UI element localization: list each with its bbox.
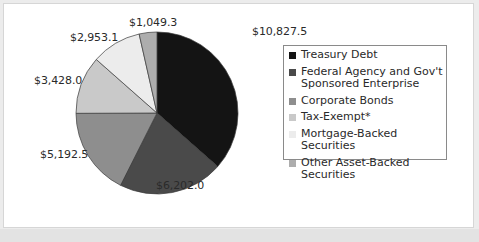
legend-label: Other Asset-Backed Securities <box>301 157 446 182</box>
slice-label-treasury: $10,827.5 <box>252 25 307 38</box>
legend: Treasury Debt Federal Agency and Gov't S… <box>283 45 447 160</box>
legend-label: Mortgage-Backed Securities <box>301 128 446 153</box>
legend-label-line1: Federal Agency and Gov't <box>301 65 443 78</box>
legend-label: Corporate Bonds <box>301 95 393 108</box>
slice-label-corporate: $5,192.5 <box>40 148 88 161</box>
legend-label-line2: Sponsored Enterprise <box>301 77 419 90</box>
slice-label-mortgage: $2,953.1 <box>70 31 118 44</box>
legend-label: Treasury Debt <box>301 49 378 62</box>
legend-swatch <box>289 98 296 105</box>
slice-label-federal: $6,202.0 <box>156 179 204 192</box>
slice-label-other: $1,049.3 <box>129 16 177 29</box>
legend-label: Federal Agency and Gov't Sponsored Enter… <box>301 66 443 91</box>
legend-swatch <box>289 160 296 167</box>
legend-label: Tax-Exempt* <box>301 111 371 124</box>
legend-swatch <box>289 114 296 121</box>
legend-item-federal: Federal Agency and Gov't Sponsored Enter… <box>289 66 446 91</box>
legend-item-other: Other Asset-Backed Securities <box>289 157 446 182</box>
legend-item-tax-exempt: Tax-Exempt* <box>289 111 446 124</box>
legend-item-treasury: Treasury Debt <box>289 49 446 62</box>
slice-label-tax-exempt: $3,428.0 <box>34 74 82 87</box>
legend-item-corporate: Corporate Bonds <box>289 95 446 108</box>
legend-swatch <box>289 131 296 138</box>
legend-item-mortgage: Mortgage-Backed Securities <box>289 128 446 153</box>
legend-swatch <box>289 52 296 59</box>
legend-swatch <box>289 69 296 76</box>
